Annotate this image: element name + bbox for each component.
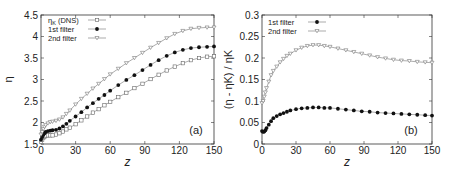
data-point	[173, 32, 177, 35]
data-point	[212, 44, 216, 48]
data-point	[269, 119, 273, 123]
data-point	[65, 128, 68, 131]
legend-label: 1st filter	[48, 25, 75, 34]
data-point	[181, 48, 185, 52]
panel-label: (a)	[189, 124, 202, 136]
data-point	[165, 54, 169, 58]
data-point	[85, 115, 88, 118]
x-tick-label: 150	[424, 145, 441, 156]
data-point	[91, 111, 94, 114]
data-point	[79, 110, 83, 114]
data-point	[189, 46, 193, 50]
data-point	[54, 133, 57, 136]
data-point	[51, 128, 55, 132]
data-point	[265, 87, 269, 90]
data-point	[415, 113, 419, 117]
y-tick-label: 0.1	[245, 96, 259, 107]
data-point	[376, 111, 380, 115]
data-point	[300, 106, 304, 110]
data-point	[68, 126, 71, 129]
data-point	[328, 106, 332, 110]
x-tick-label: 90	[139, 145, 151, 156]
data-point	[61, 124, 65, 128]
data-point	[212, 55, 215, 58]
data-point	[61, 130, 64, 133]
y-tick-label: 4.5	[24, 10, 38, 21]
x-tick-label: 0	[38, 145, 44, 156]
data-point	[181, 61, 184, 64]
data-point	[157, 41, 161, 44]
x-tick-label: 30	[70, 145, 82, 156]
data-point	[322, 106, 326, 110]
x-tick-label: 60	[324, 145, 336, 156]
data-point	[288, 52, 292, 55]
data-point	[124, 78, 128, 82]
data-point	[189, 58, 192, 61]
data-point	[141, 82, 144, 85]
data-point	[278, 112, 282, 116]
data-point	[173, 65, 176, 68]
data-point	[275, 114, 279, 118]
data-point	[360, 109, 364, 113]
data-point	[267, 80, 271, 83]
y-tick-label: 0	[253, 139, 259, 150]
figure: 03060901201501.522.533.544.5zη(a)ηK (DNS…	[0, 0, 449, 175]
x-tick-label: 60	[105, 145, 117, 156]
y-tick-label: 0.25	[240, 31, 260, 42]
data-point	[288, 109, 292, 113]
data-point	[85, 106, 89, 110]
data-point	[197, 45, 201, 49]
data-point	[149, 63, 153, 67]
data-point	[294, 107, 298, 111]
data-point	[400, 112, 404, 116]
x-tick-label: 150	[206, 145, 223, 156]
x-axis-label: z	[343, 155, 350, 169]
legend-label: 1st filter	[268, 18, 295, 27]
y-tick-label: 2.5	[24, 96, 38, 107]
data-point	[74, 115, 78, 119]
x-tick-label: 90	[358, 145, 370, 156]
data-point	[423, 113, 427, 117]
data-point	[61, 116, 65, 119]
data-point	[64, 122, 68, 126]
data-point	[108, 89, 112, 93]
data-point	[311, 106, 315, 110]
y-tick-label: 3.5	[24, 53, 38, 64]
data-point	[267, 123, 271, 127]
data-point	[133, 73, 137, 77]
data-point	[384, 111, 388, 115]
data-point	[165, 37, 169, 40]
data-point	[80, 119, 83, 122]
x-tick-label: 120	[171, 145, 188, 156]
data-point	[352, 109, 356, 113]
series-2nd-filter	[260, 44, 434, 105]
data-point	[141, 68, 145, 72]
x-tick-label: 30	[290, 145, 302, 156]
y-tick-label: 4	[32, 31, 38, 42]
data-point	[97, 107, 100, 110]
data-point	[262, 95, 266, 98]
data-point	[392, 112, 396, 116]
data-point	[407, 112, 411, 116]
data-point	[149, 77, 152, 80]
panel-b: 030609012015000.050.10.150.20.250.3z(η -…	[222, 10, 441, 170]
data-point	[269, 74, 273, 77]
data-point	[133, 86, 136, 89]
y-tick-label: 0.15	[240, 74, 260, 85]
data-point	[368, 110, 372, 114]
data-point	[103, 93, 107, 97]
data-point	[197, 56, 200, 59]
data-point	[125, 91, 128, 94]
data-point	[165, 69, 168, 72]
data-point	[103, 104, 106, 107]
y-tick-label: 0.2	[245, 53, 259, 64]
y-tick-label: 1.5	[24, 139, 38, 150]
y-tick-label: 2	[32, 117, 38, 128]
data-point	[336, 107, 340, 111]
data-point	[117, 95, 120, 98]
y-axis-label: η	[2, 76, 14, 82]
data-point	[97, 97, 101, 101]
legend-label: 2nd filter	[268, 27, 297, 36]
y-tick-label: 0.3	[245, 10, 259, 21]
data-point	[430, 114, 434, 118]
